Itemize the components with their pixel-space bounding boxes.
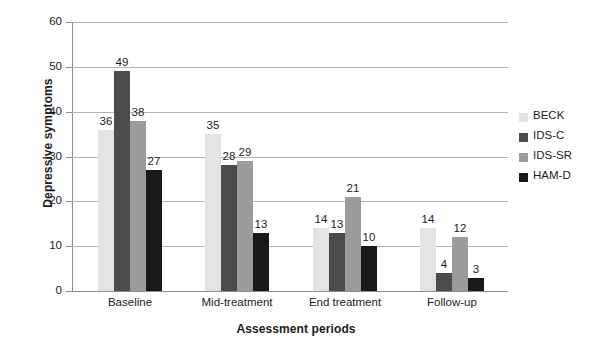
bar-chart: Depressive symptoms 36493827352829131413…	[0, 0, 596, 346]
y-tick-20	[66, 201, 72, 202]
bar-ham-d-follow-up	[468, 278, 484, 291]
y-tick-label-0: 0	[26, 285, 62, 297]
legend-item-beck[interactable]: BECK	[519, 108, 593, 128]
legend-swatch-beck	[519, 113, 528, 122]
y-tick-label-50: 50	[26, 61, 62, 73]
bar-ids-sr-baseline	[130, 121, 146, 291]
legend-swatch-ham-d	[519, 173, 528, 182]
x-axis-title: Assessment periods	[72, 322, 520, 336]
gridline-60	[72, 22, 508, 23]
bar-value-label: 38	[124, 107, 152, 119]
y-tick-30	[66, 157, 72, 158]
y-tick-label-20: 20	[26, 195, 62, 207]
legend-label: BECK	[533, 109, 564, 122]
y-tick-10	[66, 246, 72, 247]
y-tick-label-40: 40	[26, 106, 62, 118]
x-tick-label-end-treatment: End treatment	[285, 296, 405, 308]
gridline-50	[72, 67, 508, 68]
legend-item-ids-sr[interactable]: IDS-SR	[519, 148, 593, 168]
y-tick-0	[66, 291, 72, 292]
bar-ham-d-baseline	[146, 170, 162, 291]
bar-ids-c-baseline	[114, 71, 130, 291]
legend-item-ids-c[interactable]: IDS-C	[519, 128, 593, 148]
y-tick-40	[66, 112, 72, 113]
bar-ham-d-mid-treatment	[253, 233, 269, 291]
bar-value-label: 13	[247, 219, 275, 231]
legend-item-ham-d[interactable]: HAM-D	[519, 168, 593, 188]
y-tick-label-10: 10	[26, 240, 62, 252]
bar-value-label: 12	[446, 223, 474, 235]
legend-swatch-ids-c	[519, 133, 528, 142]
plot-area: 364938273528291314132110144123	[72, 22, 508, 291]
legend-swatch-ids-sr	[519, 153, 528, 162]
x-axis-line	[72, 291, 508, 292]
bar-value-label: 35	[199, 120, 227, 132]
legend-label: IDS-SR	[533, 149, 572, 162]
bar-beck-end-treatment	[313, 228, 329, 291]
legend-label: HAM-D	[533, 169, 571, 182]
bar-ids-sr-end-treatment	[345, 197, 361, 291]
x-tick-label-baseline: Baseline	[70, 296, 190, 308]
bar-value-label: 3	[462, 264, 490, 276]
x-tick-label-mid-treatment: Mid-treatment	[177, 296, 297, 308]
y-tick-label-60: 60	[26, 16, 62, 28]
bar-value-label: 14	[414, 214, 442, 226]
bar-value-label: 27	[140, 156, 168, 168]
x-tick-label-follow-up: Follow-up	[392, 296, 512, 308]
legend-label: IDS-C	[533, 129, 564, 142]
bar-value-label: 49	[108, 57, 136, 69]
bar-value-label: 29	[231, 147, 259, 159]
y-tick-50	[66, 67, 72, 68]
bar-value-label: 10	[355, 232, 383, 244]
bar-ham-d-end-treatment	[361, 246, 377, 291]
bar-ids-c-mid-treatment	[221, 165, 237, 291]
y-tick-60	[66, 22, 72, 23]
bar-value-label: 21	[339, 183, 367, 195]
chart-legend: BECKIDS-CIDS-SRHAM-D	[519, 108, 593, 188]
bar-ids-c-follow-up	[436, 273, 452, 291]
y-tick-label-30: 30	[26, 151, 62, 163]
bar-beck-baseline	[98, 130, 114, 291]
bar-ids-c-end-treatment	[329, 233, 345, 291]
